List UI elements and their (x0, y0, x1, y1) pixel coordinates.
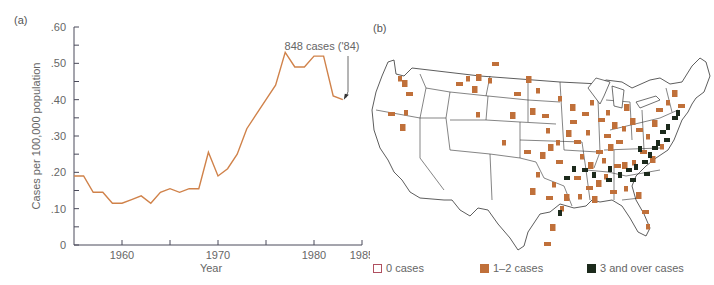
y-tick-label: .10 (51, 203, 66, 215)
y-axis: 0.10.20.30.40.50.60 (51, 21, 79, 251)
legend-label-1-2: 1–2 cases (493, 262, 543, 274)
y-tick-label: .20 (51, 166, 66, 178)
us-map (360, 0, 714, 260)
legend-label-0: 0 cases (386, 262, 424, 274)
legend-0-cases: 0 cases (373, 262, 424, 274)
line-chart: 0.10.20.30.40.50.60 1960197019801985 Cas… (0, 0, 370, 285)
legend-3-plus-cases: 3 and over cases (587, 262, 684, 274)
y-tick-label: .30 (51, 130, 66, 142)
y-axis-title: Cases per 100,000 population (30, 63, 42, 210)
arrow-head-icon (344, 94, 349, 100)
y-tick-label: .40 (51, 94, 66, 106)
x-axis-title: Year (200, 262, 223, 274)
x-tick-label: 1970 (206, 249, 230, 261)
data-line (74, 52, 343, 203)
x-axis: 1960197019801985 (74, 240, 370, 261)
legend-swatch-1-2 (480, 264, 489, 273)
legend-swatch-3-plus (587, 264, 596, 273)
x-tick-label: 1960 (110, 249, 134, 261)
annotation-text: 848 cases ('84) (285, 40, 360, 52)
y-tick-label: .60 (51, 21, 66, 33)
y-tick-label: .50 (51, 57, 66, 69)
x-tick-label: 1980 (302, 249, 326, 261)
legend-label-3-plus: 3 and over cases (600, 262, 684, 274)
legend-swatch-0 (373, 264, 382, 273)
y-tick-label: 0 (60, 239, 66, 251)
legend-1-2-cases: 1–2 cases (480, 262, 543, 274)
annotation: 848 cases ('84) (285, 40, 360, 100)
